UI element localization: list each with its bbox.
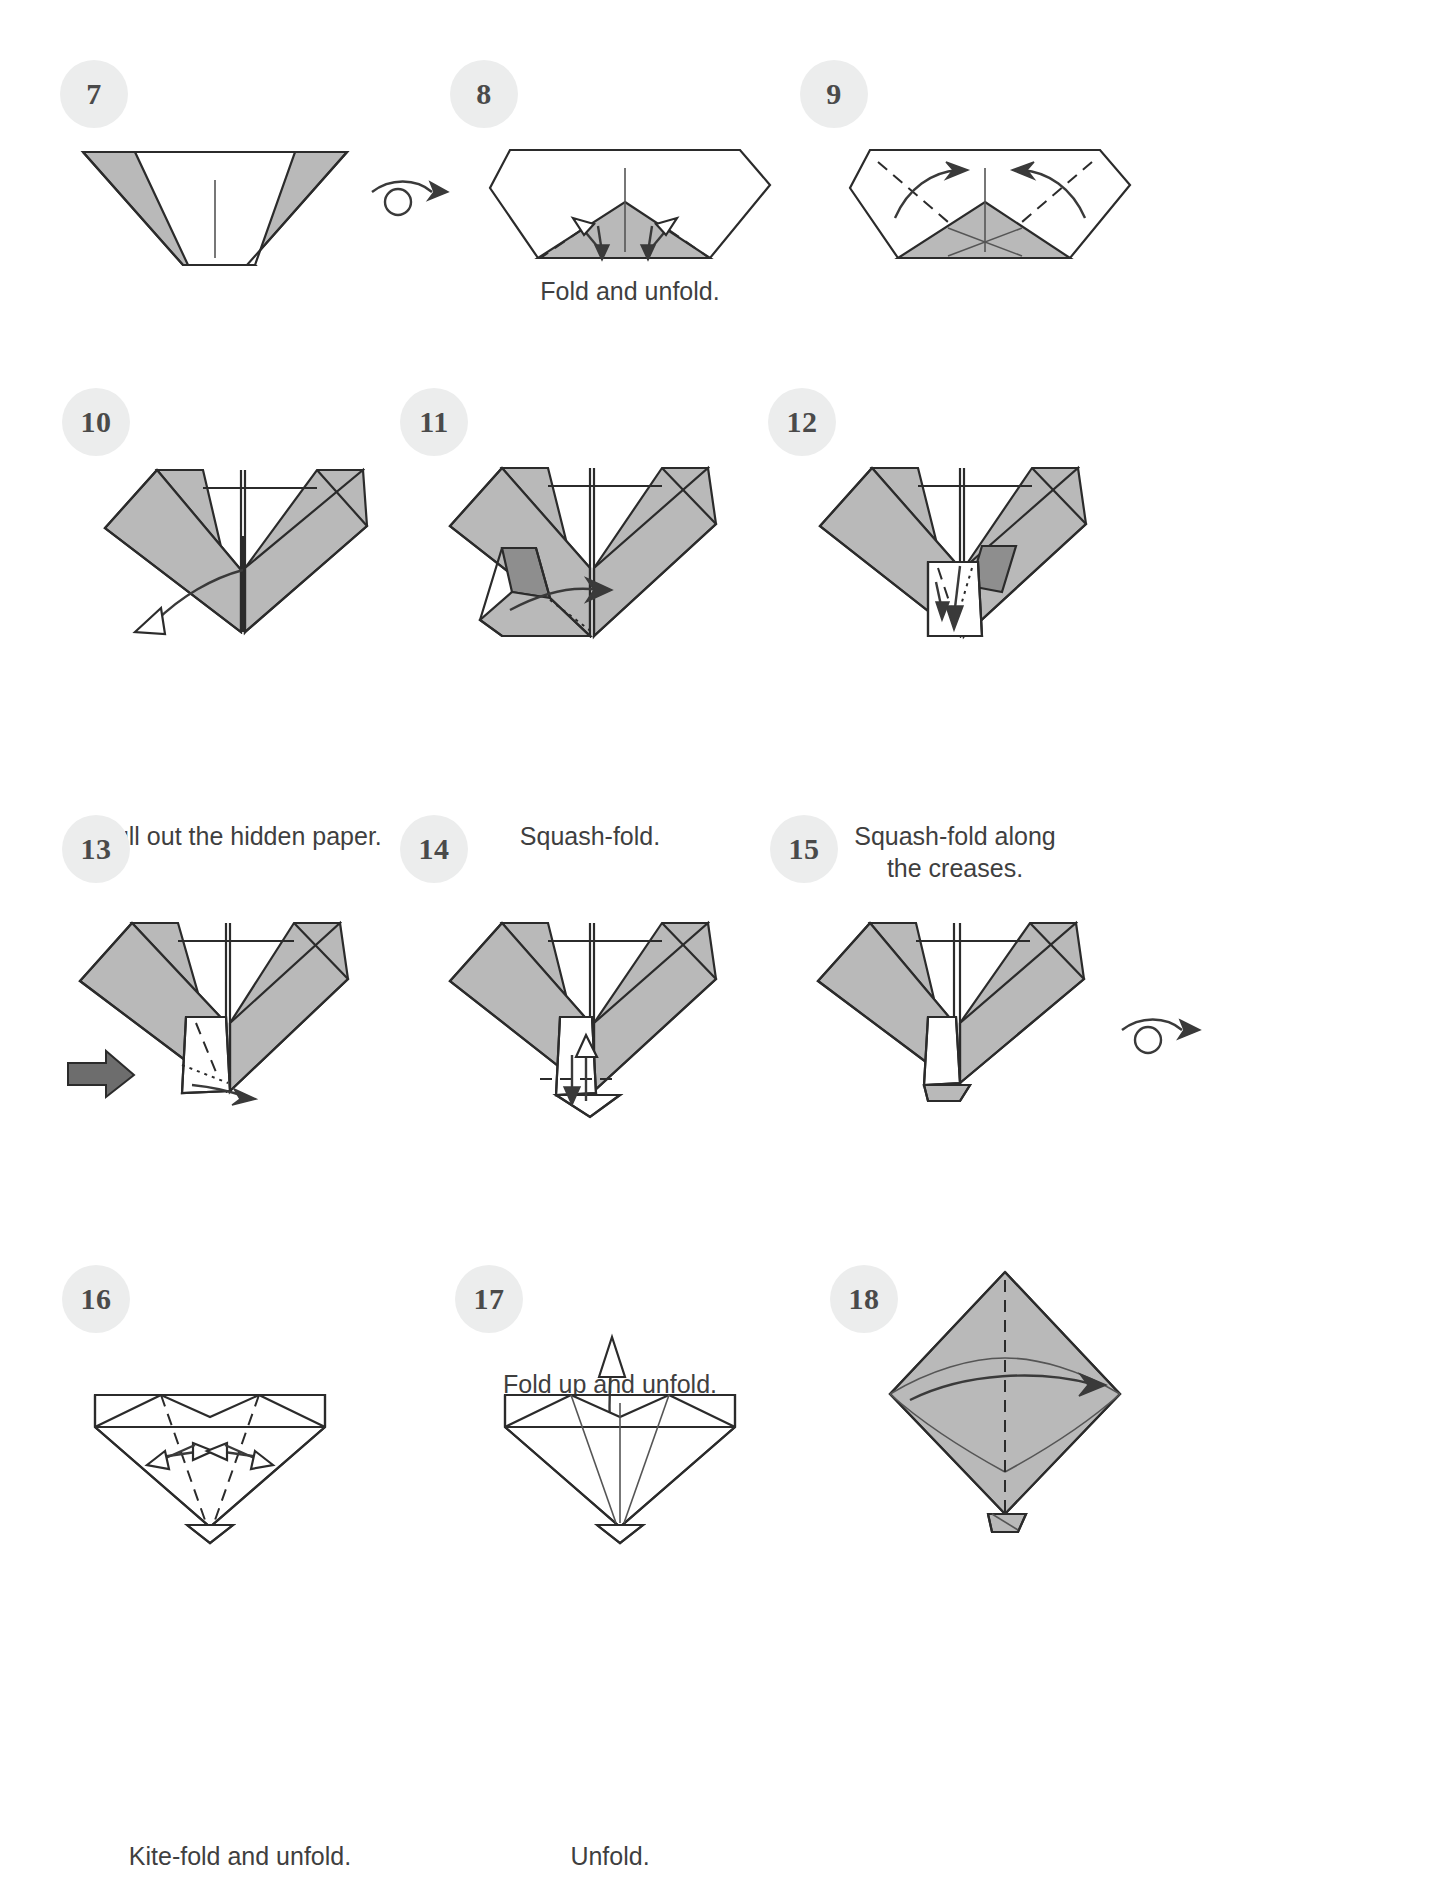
step-badge-10: 10 bbox=[62, 388, 130, 456]
step-badge-13: 13 bbox=[62, 815, 130, 883]
step-badge-7: 7 bbox=[60, 60, 128, 128]
step-figure-18 bbox=[880, 1262, 1130, 1542]
step-figure-8 bbox=[480, 140, 780, 270]
step-number: 13 bbox=[81, 832, 112, 866]
step-number: 17 bbox=[474, 1282, 505, 1316]
step-number: 16 bbox=[81, 1282, 112, 1316]
step-number: 18 bbox=[849, 1282, 880, 1316]
step-figure-16 bbox=[75, 1365, 345, 1545]
step-number: 15 bbox=[789, 832, 820, 866]
step-figure-14 bbox=[440, 905, 730, 1120]
bottom-tip bbox=[187, 1525, 233, 1543]
step-figure-12 bbox=[810, 450, 1100, 665]
step-number: 8 bbox=[476, 77, 492, 111]
step-caption-11: Squash-fold. bbox=[420, 820, 760, 852]
step-caption-16: Kite-fold and unfold. bbox=[40, 1840, 440, 1872]
step-badge-15: 15 bbox=[770, 815, 838, 883]
step-number: 14 bbox=[419, 832, 450, 866]
turnover-loop-icon bbox=[1135, 1027, 1161, 1053]
pull-out-arrow-head bbox=[135, 608, 165, 634]
step-caption-8: Fold and unfold. bbox=[480, 275, 780, 307]
step-figure-7 bbox=[55, 140, 375, 275]
step-number: 10 bbox=[81, 405, 112, 439]
small-gray-tab bbox=[924, 1085, 970, 1101]
step-badge-9: 9 bbox=[800, 60, 868, 128]
step-figure-9 bbox=[840, 140, 1140, 270]
paper-left-wing bbox=[105, 470, 241, 632]
turnover-loop-icon bbox=[385, 189, 411, 215]
push-here-arrow bbox=[68, 1051, 134, 1097]
step-figure-17 bbox=[485, 1315, 755, 1545]
step-number: 12 bbox=[787, 405, 818, 439]
unfold-arrow-head bbox=[599, 1337, 625, 1377]
result-arrow-head bbox=[232, 1089, 256, 1105]
white-flap-panel bbox=[182, 1017, 230, 1093]
step-number: 7 bbox=[86, 77, 102, 111]
step-figure-15 bbox=[808, 905, 1098, 1120]
step-number: 11 bbox=[419, 405, 448, 439]
step-figure-10 bbox=[95, 450, 375, 660]
white-center-panel bbox=[924, 1017, 960, 1085]
bottom-flap bbox=[556, 1095, 620, 1117]
turnover-symbol-after-step-15 bbox=[1120, 1008, 1220, 1068]
step-caption-12: Squash-fold along the creases. bbox=[810, 820, 1100, 884]
step-badge-16: 16 bbox=[62, 1265, 130, 1333]
turnover-symbol-after-step-7 bbox=[370, 170, 460, 230]
kite-paper bbox=[95, 1395, 325, 1527]
step-figure-13 bbox=[60, 905, 370, 1120]
bottom-tip bbox=[597, 1525, 643, 1543]
step-badge-8: 8 bbox=[450, 60, 518, 128]
step-badge-14: 14 bbox=[400, 815, 468, 883]
step-badge-12: 12 bbox=[768, 388, 836, 456]
step-number: 9 bbox=[826, 77, 842, 111]
step-figure-11 bbox=[440, 450, 730, 665]
origami-diagram-page: 7 8 bbox=[0, 0, 1450, 1894]
step-caption-17: Unfold. bbox=[440, 1840, 780, 1872]
step-badge-11: 11 bbox=[400, 388, 468, 456]
